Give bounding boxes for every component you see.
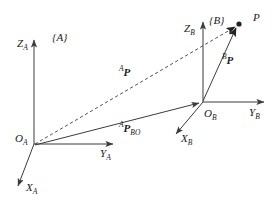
origin-label-oa: OA <box>15 133 28 147</box>
point-p-marker <box>236 21 241 26</box>
axis-label-xb: XB <box>181 133 192 147</box>
vector-label-a-p-bo: APBO <box>119 121 140 136</box>
frame-a-axes <box>18 40 113 186</box>
axis-label-za: ZA <box>17 38 28 52</box>
axis-xb-line <box>176 102 203 134</box>
frame-label-a: {A} <box>52 32 68 43</box>
vector-label-a-p: AP <box>119 65 130 78</box>
vector-label-b-p: BP <box>222 53 233 66</box>
origin-label-ob: OB <box>204 108 217 122</box>
point-label-p: P <box>253 12 260 23</box>
diagram-canvas <box>0 0 278 203</box>
axis-label-zb: ZB <box>184 23 195 37</box>
axis-label-yb: YB <box>249 107 260 121</box>
coordinate-frame-diagram: ZA {A} OA YA XA ZB {B} OB YB XB P AP BP … <box>0 0 278 203</box>
frame-label-b: {B} <box>209 15 225 26</box>
axis-label-ya: YA <box>100 148 111 162</box>
vector-a-p-bo-line <box>35 103 199 145</box>
axis-xa-line <box>18 144 34 186</box>
axis-label-xa: XA <box>26 182 37 196</box>
